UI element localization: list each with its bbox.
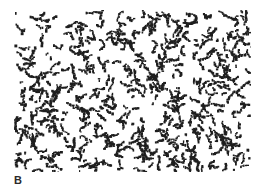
speckle-pattern-image (14, 10, 251, 172)
figure-panel: B (0, 0, 263, 193)
panel-label: B (14, 174, 22, 186)
